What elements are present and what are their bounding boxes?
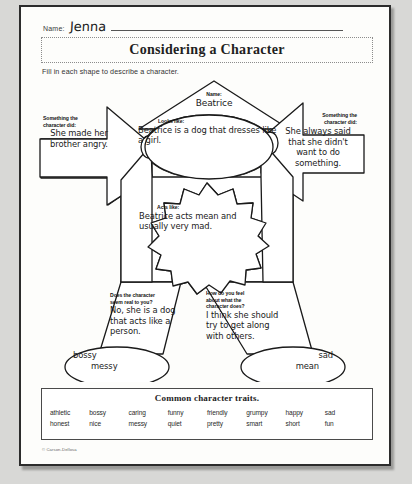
right-leg-prompt-line2: about what the [206,297,284,304]
torso-acts-like-field[interactable]: Acts like: Beatrice acts mean and usuall… [139,204,267,232]
right-arm-answer-text: She always said that she didn't want to … [279,126,357,168]
name-underline [111,30,343,31]
left-foot-trait-a: bossy [73,350,155,361]
page-title: Considering a Character [129,42,284,58]
trait-word: nice [89,420,128,427]
trait-word: short [286,420,325,427]
traits-box-title: Common character traits. [42,393,372,403]
head-name-field[interactable]: Name: Beatrice [171,91,257,109]
right-arm-prompt-line1: Something the [279,112,357,119]
left-arm-prompt-line1: Something the [43,115,115,122]
traits-grid: athletic bossy caring funny friendly gru… [42,409,372,427]
left-arm-answer-text: She made her brother angry. [43,128,115,149]
left-leg-prompt-line1: Does the character [110,292,184,299]
trait-word: friendly [207,409,246,416]
trait-word: fun [325,420,364,427]
character-body-organizer: Name: Beatrice Looks like: Beatrice is a… [21,77,389,382]
left-leg-prompt-line2: seem real to you? [110,299,184,306]
common-traits-box: Common character traits. athletic bossy … [41,388,373,440]
trait-word: quiet [168,420,207,427]
name-label: Name: [43,25,65,33]
worksheet-canvas: Name: Jenna Considering a Character Fill… [21,7,389,464]
trait-word: happy [286,409,325,416]
copyright-notice: © Carson-Dellosa [42,447,77,452]
left-leg-field[interactable]: Does the character seem real to you? No,… [110,292,184,337]
acts-like-prompt-label: Acts like: [157,204,267,211]
name-field-row: Name: Jenna [43,20,343,33]
trait-word: pretty [207,420,246,427]
left-foot-field[interactable]: bossy messy [73,350,155,371]
trait-word: smart [246,420,285,427]
looks-like-answer-text: Beatrice is a dog that dresses like a gi… [138,125,278,146]
right-leg-field[interactable]: How do you feel about what the character… [206,290,284,341]
trait-word: bossy [89,409,128,416]
right-foot-trait-a: sad [251,350,333,361]
name-input-value[interactable]: Jenna [69,20,106,33]
right-arm-prompt-line2: character did: [279,119,357,126]
right-leg-answer-text: I think she should try to get along with… [206,310,284,342]
face-looks-like-field[interactable]: Looks like: Beatrice is a dog that dress… [138,118,278,146]
trait-word: athletic [50,409,89,416]
left-leg-answer-text: No, she is a dog that acts like a person… [110,305,184,337]
right-leg-prompt-line3: character does? [206,303,284,310]
right-foot-trait-b: mean [251,361,333,372]
trait-word: sad [325,409,364,416]
worksheet-page: Name: Jenna Considering a Character Fill… [19,5,391,466]
looks-like-prompt-label: Looks like: [158,118,278,125]
trait-word: funny [168,409,207,416]
right-arm-field[interactable]: Something the character did: She always … [279,112,357,168]
left-arm-prompt-line2: character did: [43,122,115,129]
trait-word: caring [129,409,168,416]
head-answer-text: Beatrice [171,98,257,109]
title-banner: Considering a Character [41,37,373,63]
instruction-text: Fill in each shape to describe a charact… [42,67,179,76]
left-foot-trait-b: messy [73,361,155,372]
trait-word: messy [129,420,168,427]
head-prompt-label: Name: [171,91,257,98]
trait-word: honest [50,420,89,427]
acts-like-answer-text: Beatrice acts mean and usually very mad. [139,211,267,232]
left-arm-field[interactable]: Something the character did: She made he… [43,115,115,149]
right-leg-prompt-line1: How do you feel [206,290,284,297]
right-foot-field[interactable]: sad mean [251,350,333,371]
trait-word: grumpy [246,409,285,416]
